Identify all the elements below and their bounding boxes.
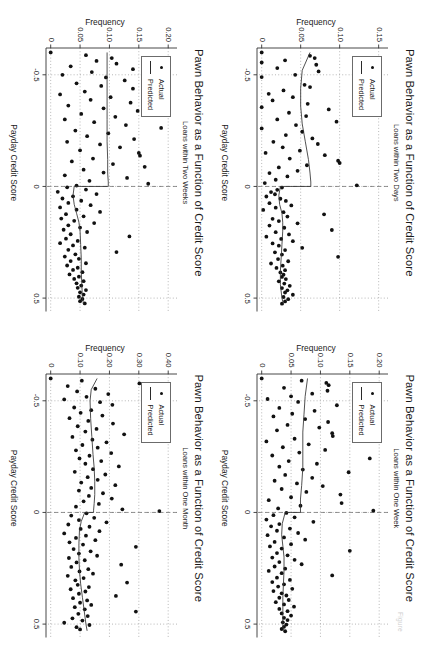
y-tick-label: 0.15 — [374, 0, 383, 42]
panel-subtitle: Loans within One Month — [181, 326, 190, 651]
panel-subtitle: Loans within One Week — [392, 326, 401, 651]
dot-marker-icon — [157, 387, 166, 400]
dot-marker-icon — [368, 387, 377, 400]
y-tick-label: 0.10 — [105, 0, 114, 42]
panel-one-week: Pawn Behavior as a Function of Credit Sc… — [211, 326, 422, 651]
y-tick-label: 0.20 — [375, 326, 384, 368]
x-axis-label: Payday Credit Score — [220, 0, 230, 326]
line-marker-icon — [357, 387, 366, 400]
panel-subtitle: Loans within Two Days — [392, 0, 401, 326]
legend-label-predicted: Predicted — [356, 79, 367, 110]
legend-label-predicted: Predicted — [145, 79, 156, 110]
y-tick-label: 0.15 — [345, 326, 354, 368]
x-tick-label: -0.5 — [32, 394, 41, 407]
panel-title: Pawn Behavior as a Function of Credit Sc… — [404, 326, 416, 651]
y-tick-label: 0 — [46, 326, 55, 368]
panel-title: Pawn Behavior as a Function of Credit Sc… — [193, 326, 205, 651]
x-tick-label: -0.5 — [32, 68, 41, 81]
y-tick-label: 0 — [257, 326, 266, 368]
x-tick-label: 0 — [32, 510, 41, 514]
y-tick-label: 0 — [257, 0, 266, 42]
legend-item-predicted: Predicted — [145, 61, 156, 110]
dot-marker-icon — [368, 61, 377, 74]
x-tick-label: -0.5 — [243, 394, 252, 407]
legend-label-actual: Actual — [367, 79, 378, 100]
figure-rotation-wrapper: Pawn Behavior as a Function of Credit Sc… — [0, 0, 422, 651]
y-tick-label: 0.40 — [164, 326, 173, 368]
panel-one-month: Pawn Behavior as a Function of Credit Sc… — [0, 326, 211, 651]
y-tick-label: 0.10 — [316, 326, 325, 368]
legend-label-actual: Actual — [156, 405, 167, 426]
legend-label-predicted: Predicted — [145, 405, 156, 436]
line-marker-icon — [357, 61, 366, 74]
legend-label-actual: Actual — [367, 405, 378, 426]
legend: ActualPredicted — [352, 56, 382, 117]
y-tick-label: 0.10 — [335, 0, 344, 42]
legend-item-actual: Actual — [367, 61, 378, 110]
x-tick-label: 0 — [32, 185, 41, 189]
y-tick-label: 0.20 — [105, 326, 114, 368]
y-tick-label: 0.10 — [76, 326, 85, 368]
multi-panel-figure: Pawn Behavior as a Function of Credit Sc… — [0, 0, 422, 651]
x-tick-label: 0.5 — [32, 293, 41, 304]
panel-title: Pawn Behavior as a Function of Credit Sc… — [404, 0, 416, 326]
y-tick-label: 0.05 — [296, 0, 305, 42]
legend-item-actual: Actual — [156, 387, 167, 436]
legend-item-predicted: Predicted — [356, 387, 367, 436]
legend-item-predicted: Predicted — [145, 387, 156, 436]
legend-item-actual: Actual — [367, 387, 378, 436]
legend-label-predicted: Predicted — [356, 405, 367, 436]
y-tick-label: 0.30 — [134, 326, 143, 368]
x-tick-label: 0 — [243, 510, 252, 514]
y-tick-label: 0.05 — [287, 326, 296, 368]
panel-subtitle: Loans within Two Weeks — [181, 0, 190, 326]
y-tick-label: 0 — [46, 0, 55, 42]
legend: ActualPredicted — [141, 382, 171, 443]
panel-title: Pawn Behavior as a Function of Credit Sc… — [193, 0, 205, 326]
x-axis-label: Payday Credit Score — [9, 0, 19, 326]
x-axis-label: Payday Credit Score — [9, 326, 19, 651]
line-marker-icon — [146, 61, 155, 74]
legend-label-actual: Actual — [156, 79, 167, 100]
x-tick-label: -0.5 — [243, 68, 252, 81]
x-axis-label: Payday Credit Score — [220, 326, 230, 651]
y-tick-label: 0.20 — [164, 0, 173, 42]
x-tick-label: 0.5 — [243, 619, 252, 630]
legend-item-predicted: Predicted — [356, 61, 367, 110]
panel-two-weeks: Pawn Behavior as a Function of Credit Sc… — [0, 0, 211, 326]
y-tick-label: 0.15 — [134, 0, 143, 42]
legend-item-actual: Actual — [156, 61, 167, 110]
x-tick-label: 0.5 — [243, 293, 252, 304]
x-tick-label: 0 — [243, 185, 252, 189]
panel-two-days: Pawn Behavior as a Function of Credit Sc… — [211, 0, 422, 326]
dot-marker-icon — [157, 61, 166, 74]
legend: ActualPredicted — [141, 56, 171, 117]
x-tick-label: 0.5 — [32, 619, 41, 630]
cut-off-caption: Figure — [397, 612, 404, 632]
y-tick-label: 0.05 — [76, 0, 85, 42]
legend: ActualPredicted — [352, 382, 382, 443]
line-marker-icon — [146, 387, 155, 400]
